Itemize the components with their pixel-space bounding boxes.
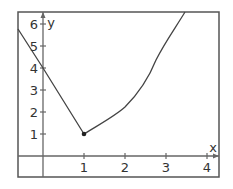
y-axis-label: y [47, 15, 55, 30]
vertex-point [82, 132, 87, 137]
y-tick-label: 5 [30, 39, 38, 54]
x-tick-label: 4 [203, 160, 211, 175]
x-tick-label: 3 [162, 160, 170, 175]
plot-frame [18, 12, 219, 177]
x-tick-label: 1 [80, 160, 88, 175]
x-tick-label: 2 [121, 160, 129, 175]
x-axis-label: x [209, 140, 217, 155]
y-tick-label: 1 [30, 127, 38, 142]
function-graph: 1 2 3 4 1 2 3 4 5 6 x y [0, 0, 233, 189]
y-tick-label: 2 [30, 105, 38, 120]
y-tick-label: 3 [30, 83, 38, 98]
y-tick-label: 4 [30, 61, 38, 76]
y-tick-label: 6 [30, 17, 38, 32]
